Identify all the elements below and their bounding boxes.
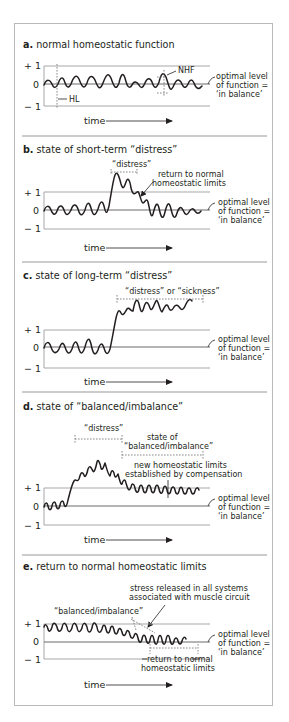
- optimal-label-line3: ‘in balance’: [218, 512, 264, 521]
- optimal-label-line3: ‘in balance’: [218, 353, 264, 362]
- optimal-label-line2: of function =: [218, 639, 270, 648]
- tick-plus-one: + 1: [24, 60, 41, 71]
- distress-sickness-label: “distress” or “sickness”: [125, 287, 220, 296]
- hl-label: HL: [69, 95, 80, 104]
- optimal-label-line2: of function =: [218, 503, 270, 512]
- return-label: return to normal: [158, 170, 224, 179]
- state-label: state of: [147, 433, 178, 442]
- time-axis-label: time: [84, 242, 106, 253]
- distress-label: “distress”: [84, 424, 123, 433]
- tick-plus-one: + 1: [24, 618, 41, 629]
- tick-plus-one: + 1: [24, 482, 41, 493]
- homeostatic-wave: [44, 74, 202, 89]
- optimal-label: optimal level: [218, 630, 270, 639]
- optimal-label-line3: ‘in balance’: [218, 648, 264, 657]
- new-limits-label: new homeostatic limits: [134, 461, 227, 470]
- return-label: return to normal: [147, 655, 213, 664]
- return-wave: [44, 623, 186, 644]
- optimal-label-line2: of function =: [218, 344, 270, 353]
- optimal-label: optimal level: [218, 198, 270, 207]
- tick-zero: 0: [33, 79, 39, 90]
- panel-d: d. state of “balanced/imbalance” + 1 0 −…: [23, 401, 270, 545]
- stress-released-label: stress released in all systems: [130, 584, 248, 593]
- balanced-imbalance-bracket: [122, 451, 203, 460]
- panel-title: e. return to normal homeostatic limits: [23, 561, 207, 572]
- optimal-label-line2: of function =: [218, 207, 270, 216]
- tick-zero: 0: [33, 636, 39, 647]
- panel-a: a. normal homeostatic function + 1 0 − 1…: [23, 39, 268, 126]
- tick-plus-one: + 1: [24, 324, 41, 335]
- panel-b: b. state of short-term “distress” + 1 0 …: [23, 144, 270, 253]
- tick-minus-one: − 1: [24, 520, 41, 531]
- return-arrow: [141, 182, 153, 196]
- balanced-imbalance-label: “balanced/imbalance”: [54, 607, 143, 616]
- panel-c: c. state of long-term “distress” + 1 0 −…: [23, 270, 270, 387]
- tick-minus-one: − 1: [24, 363, 41, 374]
- distress-label: “distress”: [112, 160, 151, 169]
- panel-e: e. return to normal homeostatic limits s…: [23, 561, 270, 690]
- tick-minus-one: − 1: [24, 223, 41, 234]
- stress-released-label-line2: associated with muscle circuit: [129, 593, 250, 602]
- time-axis-label: time: [84, 115, 106, 126]
- long-term-distress-wave: [44, 300, 192, 354]
- time-axis-label: time: [84, 376, 106, 387]
- nhf-label: NHF: [178, 66, 195, 75]
- optimal-label-line3: ‘in balance’: [218, 216, 264, 225]
- tick-minus-one: − 1: [24, 101, 41, 112]
- state-label-line2: “balanced/imbalance”: [124, 442, 213, 451]
- new-limits-label-line2: established by compensation: [125, 470, 242, 479]
- optimal-label: optimal level: [216, 72, 268, 81]
- optimal-label-line3: ‘in balance’: [216, 90, 262, 99]
- panel-title: b. state of short-term “distress”: [23, 144, 177, 155]
- return-label-line2: homeostatic limits: [141, 664, 215, 673]
- distress-bracket: [75, 435, 122, 443]
- optimal-label-line2: of function =: [216, 81, 268, 90]
- tick-plus-one: + 1: [24, 187, 41, 198]
- tick-zero: 0: [33, 205, 39, 216]
- optimal-label: optimal level: [218, 335, 270, 344]
- panel-title: c. state of long-term “distress”: [23, 270, 172, 281]
- tick-zero: 0: [33, 342, 39, 353]
- time-axis-label: time: [84, 534, 106, 545]
- optimal-label: optimal level: [218, 494, 270, 503]
- return-label-line2: homeostatic limits: [152, 179, 226, 188]
- panel-title: d. state of “balanced/imbalance”: [23, 401, 183, 412]
- tick-zero: 0: [33, 501, 39, 512]
- panel-title: a. normal homeostatic function: [23, 39, 175, 50]
- return-bracket: [150, 644, 198, 654]
- time-axis-label: time: [84, 679, 106, 690]
- distress-sickness-bracket: [117, 295, 203, 303]
- homeostasis-diagram: a. normal homeostatic function + 1 0 − 1…: [0, 0, 289, 722]
- tick-minus-one: − 1: [24, 654, 41, 665]
